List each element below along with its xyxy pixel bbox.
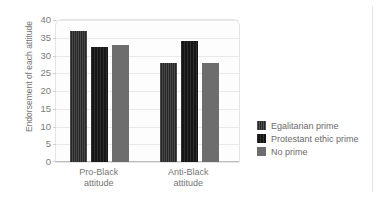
bar-1-2: [202, 63, 219, 162]
y-tick-label-20: 20: [40, 86, 51, 96]
chart-legend: Egalitarian primeProtestant ethic primeN…: [257, 119, 359, 158]
y-tick-label-15: 15: [40, 104, 51, 114]
legend-swatch-icon-0: [257, 121, 266, 130]
gridline-40: [56, 20, 239, 21]
bar-0-2: [112, 45, 129, 162]
y-tick-mark-10: [53, 127, 56, 128]
bar-chart-figure: Endorsement of each attitude 05101520253…: [0, 0, 390, 200]
plot-inner: 0510152025303540: [56, 20, 239, 162]
legend-swatch-icon-2: [257, 147, 266, 156]
y-tick-mark-5: [53, 144, 56, 145]
y-axis-title: Endorsement of each attitude: [25, 2, 34, 152]
y-tick-label-0: 0: [46, 157, 51, 167]
legend-label-0: Egalitarian prime: [271, 121, 339, 131]
x-category-line1: Anti-Black: [148, 167, 228, 178]
y-tick-label-35: 35: [40, 33, 51, 43]
legend-item-2: No prime: [257, 145, 359, 158]
bar-1-1: [181, 41, 198, 162]
legend-swatch-icon-1: [257, 134, 266, 143]
y-tick-label-30: 30: [40, 51, 51, 61]
y-tick-mark-30: [53, 56, 56, 57]
x-category-line2: attitude: [59, 178, 139, 189]
y-tick-label-40: 40: [40, 15, 51, 25]
plot-area: 0510152025303540: [55, 19, 240, 163]
x-category-line2: attitude: [148, 178, 228, 189]
legend-item-1: Protestant ethic prime: [257, 132, 359, 145]
y-tick-mark-20: [53, 91, 56, 92]
bar-0-1: [91, 47, 108, 162]
x-category-label-0: Pro-Blackattitude: [59, 167, 139, 189]
x-category-line1: Pro-Black: [59, 167, 139, 178]
y-tick-mark-0: [53, 161, 56, 162]
y-tick-label-25: 25: [40, 68, 51, 78]
legend-label-2: No prime: [271, 147, 308, 157]
y-tick-mark-25: [53, 73, 56, 74]
y-tick-mark-40: [53, 20, 56, 21]
bar-1-0: [160, 63, 177, 162]
y-tick-label-10: 10: [40, 122, 51, 132]
y-tick-label-5: 5: [46, 139, 51, 149]
page-top-text-sliver: [6, 0, 196, 5]
page-edge-rule: [372, 6, 373, 192]
legend-item-0: Egalitarian prime: [257, 119, 359, 132]
bar-0-0: [70, 31, 87, 162]
legend-label-1: Protestant ethic prime: [271, 134, 359, 144]
x-category-label-1: Anti-Blackattitude: [148, 167, 228, 189]
y-tick-mark-15: [53, 109, 56, 110]
y-tick-mark-35: [53, 38, 56, 39]
